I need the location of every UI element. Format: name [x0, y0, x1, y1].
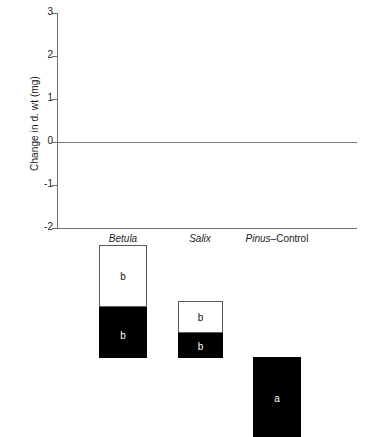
bar-segment-open-betula[interactable]: b	[99, 245, 147, 307]
y-tick-label-2: 2	[47, 49, 53, 60]
x-label-salix-text: Salix	[189, 233, 211, 244]
y-tick-label-1: 1	[47, 92, 53, 103]
x-label-betula-text: Betula	[109, 233, 137, 244]
x-label-betula: Betula	[83, 233, 163, 244]
y-tick-label-neg2: -2	[44, 221, 53, 232]
bar-label-open-betula: b	[100, 272, 146, 282]
zero-reference-line	[57, 142, 357, 143]
x-label-pinus-text: Pinus	[246, 233, 271, 244]
bar-segment-filled-pinus-control[interactable]: a	[253, 357, 301, 437]
y-tick-label-0: 0	[47, 135, 53, 146]
x-label-pinus-control: Pinus–Control	[227, 233, 327, 244]
bar-segment-open-salix[interactable]: b	[178, 301, 223, 333]
bar-label-open-salix: b	[179, 313, 222, 323]
bar-label-filled-salix: b	[179, 342, 222, 352]
bar-label-filled-betula: b	[100, 331, 146, 341]
x-label-control-text: –Control	[271, 233, 309, 244]
bar-label-filled-pinus-control: a	[254, 394, 300, 404]
y-axis-title: Change in d. wt (mg)	[29, 39, 40, 209]
y-tick-label-neg1: -1	[44, 178, 53, 189]
bar-segment-filled-salix[interactable]: b	[178, 333, 223, 358]
x-axis-spine	[57, 228, 357, 229]
plot-area: 3 2 1 0 -1 -2 b b	[57, 13, 357, 228]
y-axis-spine	[57, 13, 58, 229]
y-tick-label-3: 3	[47, 6, 53, 17]
bar-segment-filled-betula[interactable]: b	[99, 307, 147, 358]
